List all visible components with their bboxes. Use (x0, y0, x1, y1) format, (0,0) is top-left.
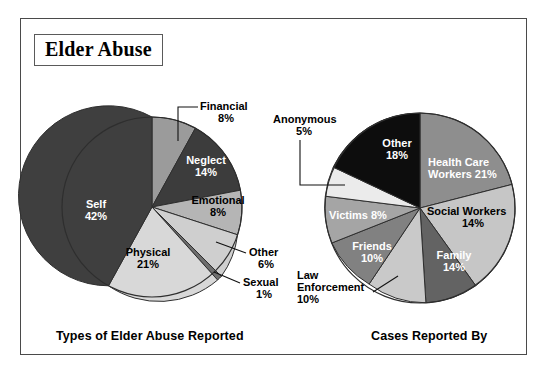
label-social-workers: Social Workers 14% (427, 205, 519, 229)
label-health-care-workers: Health Care Workers 21% (428, 156, 512, 180)
label-other-right: Other 18% (375, 137, 419, 161)
callout-anonymous: Anonymous 5% (273, 113, 337, 137)
right-pie-chart (0, 0, 559, 379)
label-friends: Friends 10% (346, 240, 398, 264)
caption-left-chart: Types of Elder Abuse Reported (56, 330, 244, 342)
callout-law-enforcement: Law Enforcement 10% (297, 269, 364, 305)
figure-root: Elder Abuse (0, 0, 559, 379)
caption-right-chart: Cases Reported By (371, 330, 487, 342)
label-victims: Victims 8% (329, 209, 407, 221)
label-family: Family 14% (429, 249, 479, 273)
